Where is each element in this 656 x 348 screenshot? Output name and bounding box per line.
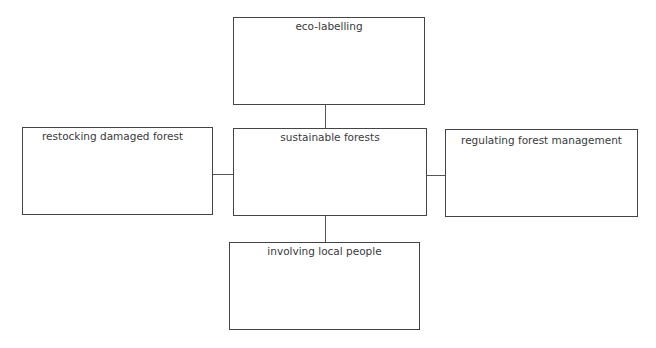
connector-center-bottom <box>325 216 326 242</box>
node-label: restocking damaged forest <box>42 130 212 142</box>
node-label: eco-labelling <box>234 20 424 32</box>
connector-center-left <box>213 174 233 175</box>
node-sustainable-forests: sustainable forests <box>233 128 427 216</box>
connector-center-top <box>325 105 326 128</box>
node-involving-local-people: involving local people <box>229 242 420 330</box>
node-regulating-forest-management: regulating forest management <box>445 129 638 217</box>
center-label: sustainable forests <box>234 131 426 143</box>
node-eco-labelling: eco-labelling <box>233 17 425 105</box>
node-label: regulating forest management <box>446 134 637 146</box>
node-label: involving local people <box>230 245 419 257</box>
connector-center-right <box>427 175 445 176</box>
node-restocking-damaged-forest: restocking damaged forest <box>22 127 213 215</box>
